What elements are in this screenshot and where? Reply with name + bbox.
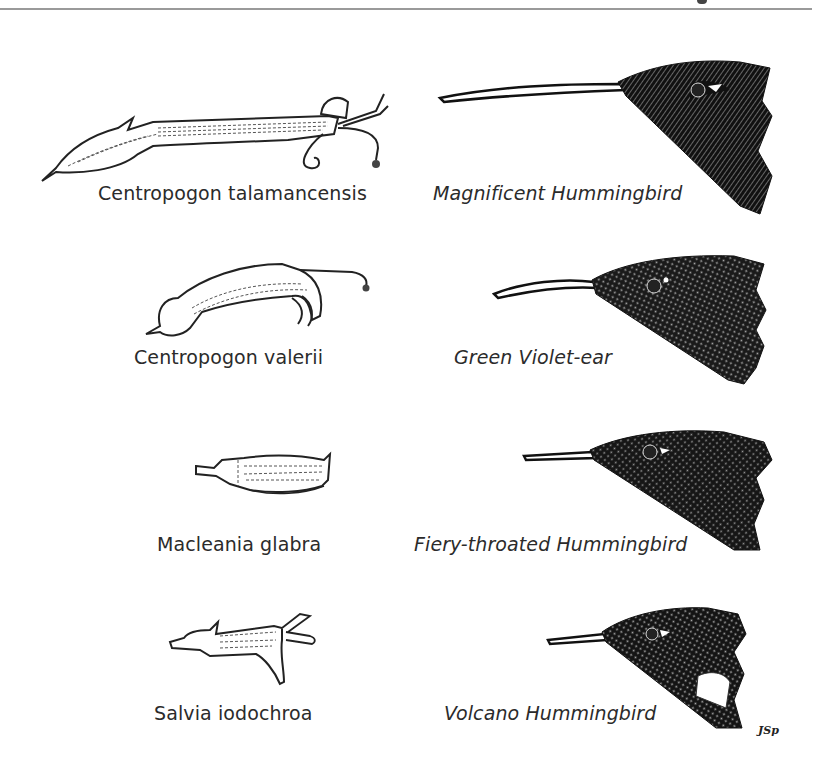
flower-hummingbird-plate: Centropogon talamancensis Magnificent Hu… (0, 0, 824, 763)
flower-illustration-lipped-icon (170, 610, 330, 690)
flower-caption: Salvia iodochroa (154, 702, 313, 724)
hummingbird-caption: Magnificent Hummingbird (433, 182, 682, 204)
flower-caption: Macleania glabra (157, 533, 321, 555)
flower-illustration-curved-icon (142, 250, 382, 350)
artist-signature: JSp (758, 724, 779, 737)
flower-illustration-short-tubular-icon (194, 450, 334, 500)
flower-caption: Centropogon talamancensis (98, 182, 367, 204)
hummingbird-caption: Fiery-throated Hummingbird (414, 533, 687, 555)
hummingbird-caption: Volcano Hummingbird (444, 702, 656, 724)
flower-caption: Centropogon valerii (134, 346, 323, 368)
hummingbird-caption: Green Violet-ear (454, 346, 612, 368)
hummingbird-head-curved-bill-icon (494, 250, 774, 390)
flower-illustration-long-tubular-icon (38, 56, 418, 186)
